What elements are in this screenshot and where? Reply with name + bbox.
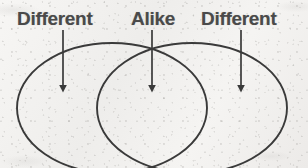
label-right-different: Different	[201, 9, 276, 28]
left-set-ellipse	[17, 43, 207, 168]
venn-diagram-figure: Different Alike Different	[0, 0, 308, 168]
label-middle-alike: Alike	[131, 9, 175, 28]
label-left-different: Different	[17, 9, 92, 28]
right-set-ellipse	[97, 43, 287, 168]
